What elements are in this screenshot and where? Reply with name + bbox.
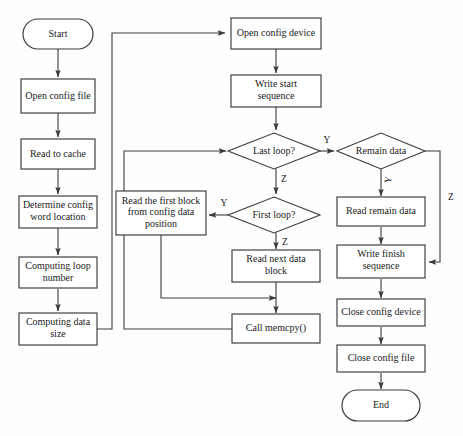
node-close-config-file-label: Close config file	[348, 352, 415, 363]
node-open-config-device: Open config device	[231, 18, 321, 49]
node-write-finish-sequence: Write finishsequence	[337, 245, 425, 278]
nodes-layer: Start Open config file Read to cache Det…	[19, 18, 425, 421]
node-start: Start	[23, 19, 93, 49]
node-open-config-device-label: Open config device	[237, 27, 316, 38]
node-open-config-file: Open config file	[21, 79, 95, 113]
node-close-config-device-label: Close config device	[341, 306, 421, 317]
node-call-memcpy-label: Call memcpy()	[246, 322, 306, 334]
node-write-start-sequence-label: Write startsequence	[255, 79, 297, 102]
node-open-config-file-label: Open config file	[25, 90, 91, 101]
node-read-to-cache-label: Read to cache	[30, 148, 87, 159]
edge-remaindata-no-to-writefinish	[425, 151, 440, 262]
node-call-memcpy: Call memcpy()	[232, 314, 320, 343]
edge-label-remain-data-yes: Y	[383, 175, 394, 184]
node-read-remain-data-label: Read remain data	[346, 205, 417, 216]
node-read-to-cache: Read to cache	[21, 139, 95, 169]
node-end-label: End	[373, 399, 389, 410]
edge-label-first-loop-no: Z	[282, 237, 288, 247]
node-computing-loop-number: Computing loopnumber	[19, 257, 97, 288]
node-determine-config-word-location: Determine configword location	[19, 196, 97, 228]
node-last-loop-decision: Last loop?	[228, 133, 320, 169]
flowchart-canvas: Start Open config file Read to cache Det…	[0, 0, 463, 436]
node-read-first-block: Read the first blockfrom config dataposi…	[116, 191, 206, 235]
edge-label-last-loop-no: Z	[281, 174, 287, 184]
node-write-finish-sequence-label: Write finishsequence	[357, 249, 405, 272]
node-computing-data-size: Computing datasize	[19, 313, 97, 345]
edge-label-first-loop-yes: Y	[221, 198, 228, 208]
node-first-loop-decision: First loop?	[228, 197, 320, 233]
node-first-loop-decision-label: First loop?	[252, 209, 296, 220]
node-read-remain-data: Read remain data	[337, 197, 425, 226]
edge-label-remain-data-no: Z	[448, 192, 454, 202]
node-remain-data-decision: Remain data	[337, 133, 425, 169]
node-close-config-file: Close config file	[337, 345, 425, 372]
node-end: End	[342, 390, 420, 421]
node-close-config-device: Close config device	[337, 299, 425, 326]
edge-memcpy-to-lastloop-feedback	[124, 151, 232, 329]
edge-label-last-loop-yes: Y	[324, 135, 331, 145]
node-remain-data-decision-label: Remain data	[356, 145, 407, 156]
node-start-label: Start	[49, 28, 68, 39]
node-determine-config-word-location-label: Determine configword location	[23, 200, 93, 223]
flowchart-diagram: Start Open config file Read to cache Det…	[0, 0, 463, 436]
node-write-start-sequence: Write startsequence	[231, 75, 321, 107]
node-last-loop-decision-label: Last loop?	[253, 145, 295, 156]
node-read-next-data-block: Read next datablock	[232, 250, 320, 282]
